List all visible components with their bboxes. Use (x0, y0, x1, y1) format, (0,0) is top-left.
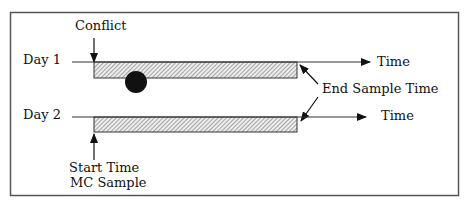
day2-label: Day 2 (23, 107, 61, 122)
day1-time-label: Time (377, 54, 410, 69)
end-sample-time-label: End Sample Time (322, 81, 439, 96)
conflict-label: Conflict (75, 18, 127, 33)
day1-label: Day 1 (23, 52, 61, 67)
start-time-label: Start Time (69, 160, 140, 175)
conflict-event-marker (125, 71, 147, 93)
diagram-canvas: Conflict Day 1 Time End Sample Time Day … (0, 0, 469, 206)
day1-sample-bar (94, 62, 297, 78)
day2-time-label: Time (381, 108, 414, 123)
mc-sample-label: MC Sample (70, 175, 147, 190)
day2-sample-bar (94, 117, 297, 132)
